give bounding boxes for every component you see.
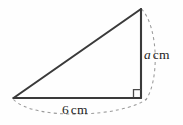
base-side-label: 6cm (62, 103, 88, 117)
geometry-figure: acm 6cm (0, 0, 183, 125)
vertical-side-variable: a (144, 47, 151, 62)
base-side-value: 6 (62, 102, 69, 117)
right-angle-marker-icon (134, 90, 141, 98)
vertical-side-unit: cm (153, 47, 170, 62)
base-side-unit: cm (71, 102, 88, 117)
vertical-side-label: acm (144, 48, 170, 62)
triangle-hypotenuse (14, 9, 142, 98)
triangle-diagram-canvas (0, 0, 183, 125)
